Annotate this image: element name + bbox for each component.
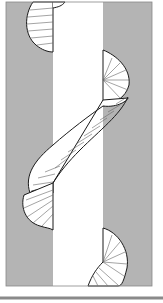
coil-diagram: [0, 0, 163, 303]
